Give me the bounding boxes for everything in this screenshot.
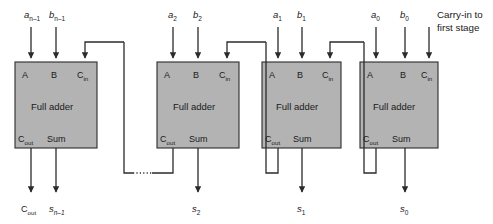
stage-1-port-sum-label: Sum xyxy=(293,134,312,144)
stage-1-port-b-label: B xyxy=(297,70,303,80)
stage-n-1-port-a-label: A xyxy=(22,70,28,80)
stage-0-port-a-label: A xyxy=(367,70,373,80)
stage-0-sum-label: s0 xyxy=(400,203,409,216)
stage-2-carry-in-wire xyxy=(227,42,266,58)
stage-2-sum-label: s2 xyxy=(192,203,201,216)
stage-n-1-port-b-label: B xyxy=(51,70,57,80)
ripple-carry-adder-diagram: an–1 bn–1 A B Cin Full adder Cout Sum Co… xyxy=(0,0,493,224)
stage-1-block-label: Full adder xyxy=(276,101,318,112)
stage-n-1-sum-label: sn–1 xyxy=(49,203,65,216)
carry-in-note-line2: first stage xyxy=(437,22,480,33)
stage-n-1-port-sum-label: Sum xyxy=(47,134,66,144)
stage-n-1-carry-in-wire xyxy=(85,42,124,58)
final-carry-out-label: Cout xyxy=(21,204,36,216)
stage-2-block-label: Full adder xyxy=(173,101,215,112)
stage-0-port-sum-label: Sum xyxy=(392,134,411,144)
stage-0-port-b-label: B xyxy=(400,70,406,80)
stage-n-1-block-label: Full adder xyxy=(31,101,73,112)
stage-2-port-sum-label: Sum xyxy=(189,134,208,144)
stage-1-sum-label: s1 xyxy=(297,203,306,216)
stage-1-input-b-label: b1 xyxy=(297,9,306,22)
continuation-wire-group xyxy=(124,42,152,173)
stage-1-input-a-label: a1 xyxy=(273,9,282,22)
stage-2-input-b-label: b2 xyxy=(193,9,202,22)
stage-n-1-input-a-label: an–1 xyxy=(24,9,41,22)
stage-0-input-b-label: b0 xyxy=(400,9,409,22)
stage-2-carry-out-wire-left xyxy=(152,148,173,173)
stage-2-port-a-label: A xyxy=(164,70,170,80)
stage-0-input-a-label: a0 xyxy=(371,9,380,22)
diagram-canvas: an–1 bn–1 A B Cin Full adder Cout Sum Co… xyxy=(0,0,493,224)
stage-1-carry-in-wire xyxy=(330,42,364,58)
stage-0-block-label: Full adder xyxy=(373,101,415,112)
stage-2-input-a-label: a2 xyxy=(168,9,177,22)
stage-2-port-b-label: B xyxy=(193,70,199,80)
carry-in-note-line1: Carry-in to xyxy=(437,9,483,20)
stage-1-port-a-label: A xyxy=(269,70,275,80)
continuation-riser-wire xyxy=(124,42,133,173)
stage-n-1-input-b-label: bn–1 xyxy=(49,9,66,22)
